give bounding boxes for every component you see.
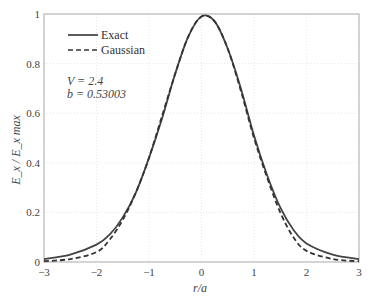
y-tick-label: 1 <box>35 8 41 20</box>
y-tick-label: 0.4 <box>26 157 40 169</box>
y-tick-label: 0.6 <box>26 107 40 119</box>
legend-gaussian-label: Gaussian <box>101 43 145 57</box>
axis-ticks: −3−2−1012300.20.40.60.81 <box>26 8 362 278</box>
x-axis-label: r/a <box>193 281 207 295</box>
legend: Exact Gaussian <box>68 28 145 57</box>
x-tick-label: 0 <box>199 266 205 278</box>
y-tick-label: 0.2 <box>26 206 40 218</box>
x-tick-label: −1 <box>143 266 155 278</box>
y-tick-label: 0.8 <box>26 58 40 70</box>
y-axis-label: E_x / E_x max <box>9 115 23 186</box>
annotation-v: V = 2.4 <box>67 74 103 88</box>
x-tick-label: −2 <box>91 266 103 278</box>
x-tick-label: 1 <box>251 266 257 278</box>
annotation-b: b = 0.53003 <box>67 87 126 101</box>
grid-lines <box>44 14 359 262</box>
legend-exact-label: Exact <box>101 28 129 42</box>
x-tick-label: 3 <box>356 266 362 278</box>
line-chart: −3−2−1012300.20.40.60.81 Exact Gaussian … <box>0 0 368 303</box>
y-tick-label: 0 <box>35 256 41 268</box>
x-tick-label: 2 <box>304 266 310 278</box>
